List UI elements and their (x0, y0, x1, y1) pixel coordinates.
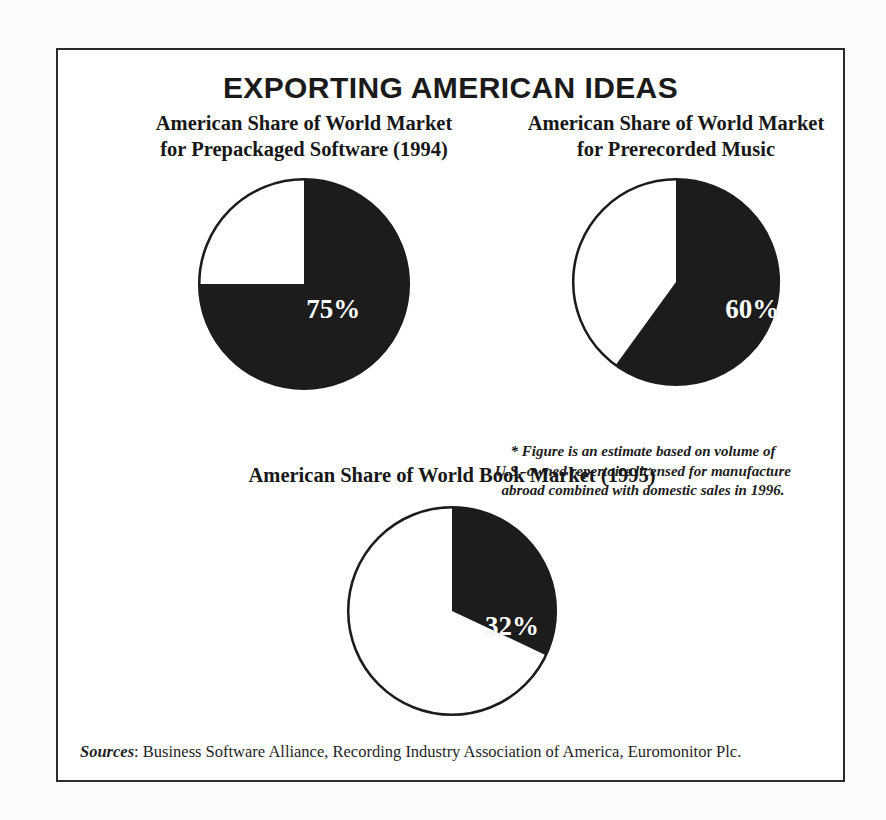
pie-label-books: 32% (485, 610, 539, 641)
pie-books: 32% (345, 504, 559, 718)
pie-music: 60% (570, 176, 782, 388)
pie-svg-music (570, 176, 782, 388)
pie-svg-software (196, 176, 412, 392)
chart-title-books: American Share of World Book Market (199… (192, 462, 712, 488)
pie-label-software: 75% (306, 293, 360, 324)
page-title: EXPORTING AMERICAN IDEAS (58, 71, 843, 105)
sources-line: Sources: Business Software Alliance, Rec… (80, 742, 840, 762)
chart-title-software: American Share of World Market for Prepa… (94, 110, 514, 162)
chart-title-music: American Share of World Market for Prere… (466, 110, 886, 162)
sources-text: : Business Software Alliance, Recording … (134, 742, 741, 761)
chart-frame: EXPORTING AMERICAN IDEAS American Share … (56, 48, 845, 782)
chart-prerecorded-music: American Share of World Market for Prere… (466, 110, 886, 388)
pie-label-music: 60% (725, 293, 779, 324)
chart-world-book-market: American Share of World Book Market (199… (192, 462, 712, 718)
pie-software: 75% (196, 176, 412, 392)
chart-prepackaged-software: American Share of World Market for Prepa… (94, 110, 514, 392)
sources-label: Sources (80, 742, 134, 761)
